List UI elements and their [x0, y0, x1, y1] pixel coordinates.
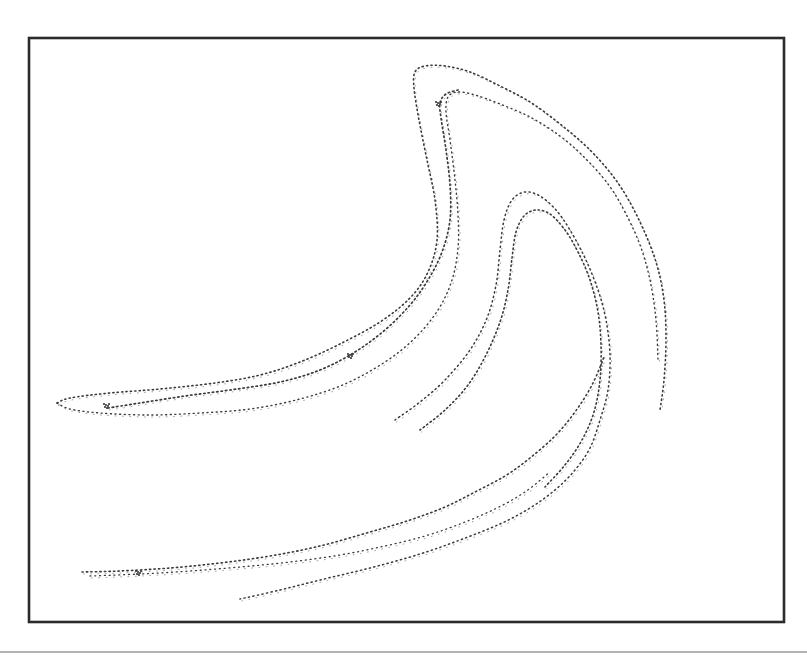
- dense-knot-left: [107, 405, 109, 407]
- dense-knot-mid: [351, 355, 353, 357]
- series-outer-fold-upper: [57, 65, 666, 410]
- dense-hook-top: [440, 101, 442, 103]
- dense-hook-top: [438, 105, 440, 107]
- attractor-points: [57, 65, 668, 601]
- dense-knot-bottom: [136, 573, 138, 575]
- dense-knot-bottom: [138, 574, 140, 576]
- dense-knot-mid: [350, 357, 352, 359]
- dense-knot-left: [108, 403, 110, 405]
- dense-knot-mid: [347, 353, 349, 355]
- series-lower-sweep: [82, 355, 605, 572]
- dense-hook-top: [435, 101, 437, 103]
- dense-hook-top: [436, 104, 438, 106]
- series-inner-fold: [108, 90, 458, 408]
- series-outer-fold-lower: [57, 92, 658, 415]
- dense-clusters: [103, 101, 442, 576]
- dense-knot-bottom: [140, 570, 142, 572]
- plot-frame: [29, 38, 784, 622]
- series-lower-sweep-inner: [90, 472, 550, 576]
- series-middle-arc-outer-scatter: [242, 194, 612, 601]
- dense-knot-left: [106, 407, 108, 409]
- dense-knot-bottom: [135, 570, 137, 572]
- series-middle-arc-inner: [420, 210, 601, 487]
- dense-knot-mid: [352, 353, 354, 355]
- series-middle-arc-outer: [240, 192, 610, 599]
- dense-knot-left: [104, 406, 106, 408]
- series-outer-fold-lower-scatter: [59, 94, 660, 417]
- series-lower-sweep-inner-scatter: [92, 474, 552, 578]
- dense-knot-mid: [349, 354, 351, 356]
- attractor-chart: [0, 0, 807, 661]
- dense-hook-top: [437, 102, 439, 104]
- dense-knot-bottom: [139, 572, 141, 574]
- dense-knot-bottom: [137, 571, 139, 573]
- dense-knot-left: [105, 404, 107, 406]
- series-inner-fold-scatter: [110, 92, 460, 410]
- dense-knot-mid: [348, 356, 350, 358]
- dense-knot-left: [103, 403, 105, 405]
- dense-hook-top: [439, 103, 441, 105]
